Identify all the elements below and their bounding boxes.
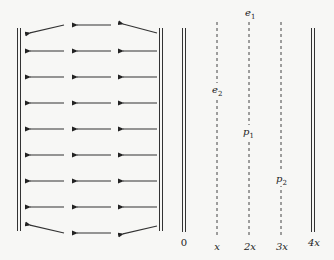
axis-label-2x: 2x xyxy=(243,241,256,252)
field-arrow xyxy=(30,25,64,33)
field-arrows xyxy=(30,24,157,234)
field-arrow xyxy=(123,24,157,33)
plate-at-zero xyxy=(183,28,186,232)
axis-label-4x: 4x xyxy=(307,237,320,248)
right-plate-wall xyxy=(160,28,163,231)
right-panel: e1 e2 p1 p2 0 x 2x 3x 4x xyxy=(181,5,321,252)
field-arrow xyxy=(123,226,157,234)
axis-label-x: x xyxy=(214,241,220,252)
field-arrow xyxy=(30,225,64,233)
left-panel xyxy=(18,24,163,234)
plate-at-4x xyxy=(312,28,315,232)
axis-label-3x: 3x xyxy=(276,241,288,252)
left-plate-wall xyxy=(18,28,21,231)
axis-label-0: 0 xyxy=(181,237,187,248)
field-diagram: e1 e2 p1 p2 0 x 2x 3x 4x xyxy=(0,0,334,260)
